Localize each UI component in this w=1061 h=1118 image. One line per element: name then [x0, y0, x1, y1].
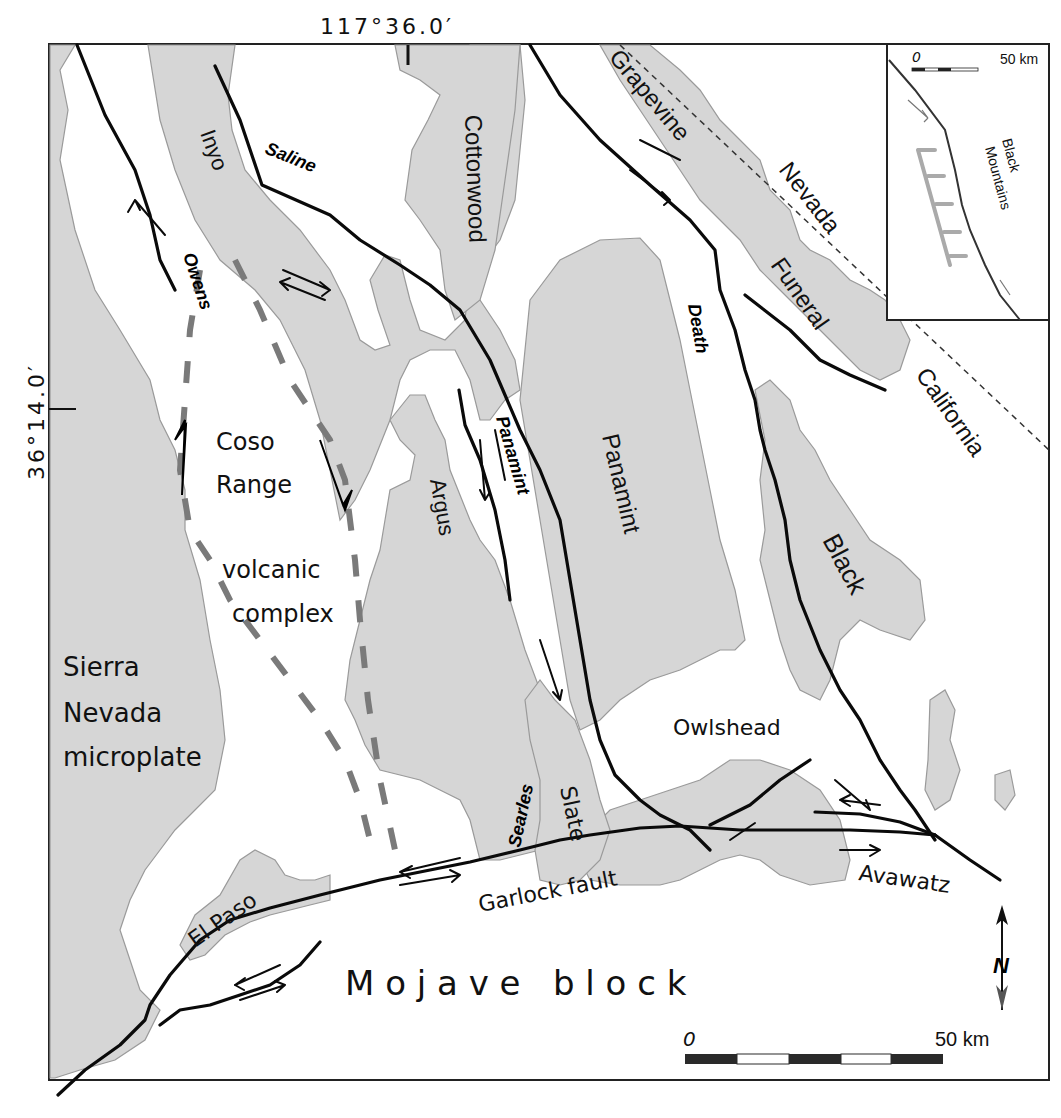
fault-map: 117°36.0′ 36°14.0′ Inyo Cottonwood Grape…: [0, 0, 1061, 1118]
scale-bar-end: 50 km: [935, 1028, 989, 1050]
scale-bar-start: 0: [683, 1027, 696, 1051]
north-arrow-label: N: [993, 953, 1010, 978]
label-coso-line3: volcanic: [222, 556, 321, 584]
inset-scale-start: 0: [912, 49, 921, 65]
latitude-label: 36°14.0′: [24, 363, 49, 480]
label-sierra-line2: Nevada: [63, 698, 162, 728]
label-sierra-line3: microplate: [63, 742, 202, 772]
inset-black-mountains: 0 50 km Black Mountains: [887, 44, 1049, 320]
label-cottonwood: Cottonwood: [460, 114, 491, 243]
label-coso-line2: Range: [216, 471, 292, 499]
label-mojave-block: M o j a v e b l o c k: [345, 963, 687, 1003]
longitude-label: 117°36.0′: [320, 14, 454, 39]
label-sierra-line1: Sierra: [63, 652, 140, 682]
label-owlshead: Owlshead: [673, 715, 781, 740]
inset-scale-end: 50 km: [1000, 51, 1038, 67]
label-coso-line4: complex: [232, 600, 334, 628]
label-coso-line1: Coso: [216, 428, 275, 456]
